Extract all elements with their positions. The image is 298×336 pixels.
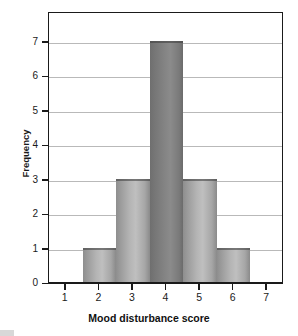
bar-top-edge: [116, 179, 150, 181]
scan-edge-artifact: [0, 330, 14, 336]
x-tick-mark-7: [265, 283, 267, 290]
y-tick-mark-4: [42, 145, 48, 147]
x-tick-mark-2: [98, 283, 100, 290]
y-tick-label-1: 1: [18, 244, 38, 254]
x-tick-mark-4: [165, 283, 167, 290]
y-tick-label-6: 6: [18, 71, 38, 81]
bar-2: [83, 248, 117, 283]
x-tick-label-4: 4: [156, 292, 176, 303]
x-tick-mark-1: [64, 283, 66, 290]
bar-6: [217, 248, 251, 283]
x-tick-label-5: 5: [189, 292, 209, 303]
y-tick-mark-1: [42, 248, 48, 250]
y-axis-title: Frequency: [20, 109, 31, 199]
x-tick-label-3: 3: [122, 292, 142, 303]
plot-area: [48, 12, 283, 283]
bar-series: [49, 13, 282, 282]
y-tick-label-0: 0: [18, 278, 38, 288]
bar-top-edge: [150, 41, 184, 43]
y-tick-mark-6: [42, 76, 48, 78]
bar-4: [150, 41, 184, 283]
y-tick-mark-7: [42, 41, 48, 43]
y-tick-label-7: 7: [18, 37, 38, 47]
x-tick-label-6: 6: [223, 292, 243, 303]
x-axis-title: Mood disturbance score: [0, 312, 298, 324]
y-tick-mark-3: [42, 179, 48, 181]
histogram-figure: 01234567 Frequency 1234567 Mood disturba…: [0, 0, 298, 336]
y-tick-mark-5: [42, 110, 48, 112]
x-tick-label-1: 1: [55, 292, 75, 303]
x-tick-label-2: 2: [88, 292, 108, 303]
bar-top-edge: [217, 248, 251, 250]
bar-top-edge: [183, 179, 217, 181]
y-tick-label-2: 2: [18, 209, 38, 219]
x-tick-mark-5: [198, 283, 200, 290]
bar-3: [116, 179, 150, 283]
y-tick-mark-0: [42, 283, 48, 285]
x-tick-label-7: 7: [256, 292, 276, 303]
x-tick-mark-3: [131, 283, 133, 290]
bar-5: [183, 179, 217, 283]
y-tick-mark-2: [42, 214, 48, 216]
bar-top-edge: [83, 248, 117, 250]
x-tick-mark-6: [232, 283, 234, 290]
